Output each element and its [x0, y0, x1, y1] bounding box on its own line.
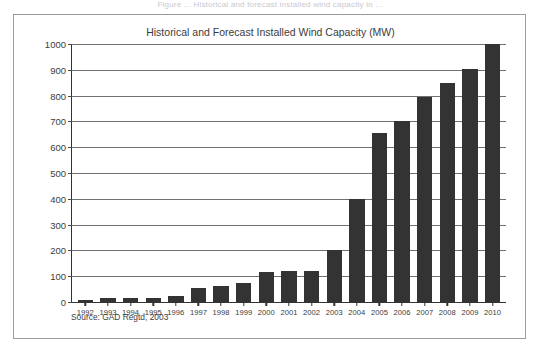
bar-2000[interactable]	[259, 272, 274, 302]
x-axis-tick-label-1998: 1998	[213, 308, 230, 317]
bar-group: 2006	[391, 44, 414, 302]
x-axis-tick-label-2008: 2008	[439, 308, 456, 317]
y-axis-tick-label: 700	[50, 116, 66, 127]
x-axis-tick-label-1999: 1999	[235, 308, 252, 317]
bar-group: 1996	[165, 44, 188, 302]
x-axis-tick-label-2005: 2005	[371, 308, 388, 317]
x-axis-tick-label-2000: 2000	[258, 308, 275, 317]
x-axis-tick-mark	[243, 302, 244, 306]
bar-1997[interactable]	[191, 288, 206, 302]
bar-group: 2010	[481, 44, 504, 302]
chart-title: Historical and Forecast Installed Wind C…	[14, 26, 527, 38]
bar-group: 2005	[368, 44, 391, 302]
bar-group: 2008	[436, 44, 459, 302]
y-axis-tick-label: 900	[50, 64, 66, 75]
y-axis-tick-label: 1000	[45, 39, 66, 50]
bar-2010[interactable]	[485, 44, 500, 302]
bar-2009[interactable]	[462, 69, 477, 302]
bar-group: 1995	[142, 44, 165, 302]
bar-1998[interactable]	[213, 286, 228, 302]
x-axis-tick-mark	[469, 302, 470, 306]
x-axis-tick-label-1997: 1997	[190, 308, 207, 317]
x-axis-tick-label-2006: 2006	[394, 308, 411, 317]
bar-series: 1992199319941995199619971998199920002001…	[72, 44, 506, 302]
bar-group: 1992	[74, 44, 97, 302]
x-axis-tick-label-2001: 2001	[280, 308, 297, 317]
bar-2007[interactable]	[417, 97, 432, 302]
bar-2008[interactable]	[440, 83, 455, 302]
x-axis-tick-mark	[220, 302, 221, 306]
x-axis-tick-label-2004: 2004	[348, 308, 365, 317]
x-axis-tick-mark	[85, 302, 86, 306]
x-axis-tick-label-2010: 2010	[484, 308, 501, 317]
bar-group: 1998	[210, 44, 233, 302]
x-axis-tick-mark	[130, 302, 131, 306]
bar-group: 1999	[232, 44, 255, 302]
bar-group: 2007	[413, 44, 436, 302]
x-axis-tick-label-2009: 2009	[461, 308, 478, 317]
x-axis-tick-label-2002: 2002	[303, 308, 320, 317]
x-axis-tick-mark	[107, 302, 108, 306]
x-axis-tick-mark	[356, 302, 357, 306]
x-axis-tick-mark	[311, 302, 312, 306]
bar-group: 2003	[323, 44, 346, 302]
bar-group: 2001	[278, 44, 301, 302]
y-axis-tick-label: 0	[61, 297, 66, 308]
y-axis-tick-label: 600	[50, 142, 66, 153]
x-axis-tick-mark	[198, 302, 199, 306]
y-axis-tick-label: 300	[50, 219, 66, 230]
y-axis-tick-label: 800	[50, 90, 66, 101]
x-axis-tick-mark	[266, 302, 267, 306]
x-axis-tick-label-2003: 2003	[326, 308, 343, 317]
bar-group: 2004	[346, 44, 369, 302]
x-axis-tick-mark	[379, 302, 380, 306]
bar-2005[interactable]	[372, 133, 387, 302]
y-axis-tick-label: 200	[50, 245, 66, 256]
x-axis-tick-label-2007: 2007	[416, 308, 433, 317]
x-axis-tick-label-1996: 1996	[167, 308, 184, 317]
bar-group: 2002	[300, 44, 323, 302]
bar-2001[interactable]	[281, 271, 296, 302]
plot-area: 01002003004005006007008009001000 1992199…	[71, 44, 506, 303]
bar-2003[interactable]	[327, 250, 342, 302]
figure-container: Historical and Forecast Installed Wind C…	[13, 14, 526, 339]
bar-group: 2000	[255, 44, 278, 302]
x-axis-tick-mark	[333, 302, 334, 306]
top-cutoff-caption: Figure ... Historical and forecast insta…	[0, 0, 540, 10]
x-axis-tick-mark	[152, 302, 153, 306]
bar-2002[interactable]	[304, 271, 319, 302]
bar-2004[interactable]	[349, 199, 364, 302]
x-axis-tick-mark	[288, 302, 289, 306]
x-axis-tick-mark	[424, 302, 425, 306]
y-axis-tick-label: 500	[50, 168, 66, 179]
bar-1999[interactable]	[236, 283, 251, 302]
x-axis-tick-mark	[401, 302, 402, 306]
bar-group: 1997	[187, 44, 210, 302]
y-axis-tick-label: 100	[50, 271, 66, 282]
bar-2006[interactable]	[394, 121, 409, 302]
y-axis-tick-mark	[68, 302, 72, 303]
bar-group: 2009	[459, 44, 482, 302]
x-axis-tick-mark	[447, 302, 448, 306]
x-axis-tick-mark	[175, 302, 176, 306]
x-axis-tick-mark	[492, 302, 493, 306]
bar-group: 1994	[119, 44, 142, 302]
y-axis-tick-label: 400	[50, 193, 66, 204]
source-note: Source: GAD Regtd, 2003	[71, 312, 168, 322]
bar-group: 1993	[97, 44, 120, 302]
